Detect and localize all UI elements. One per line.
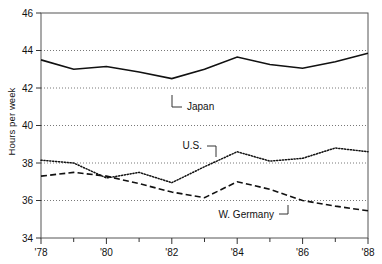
plot-frame	[41, 13, 368, 238]
ytick-label-44: 44	[22, 45, 34, 56]
series-label-japan: Japan	[187, 101, 214, 112]
x-axis-ticks	[41, 238, 368, 244]
plot-svg: 46 44 42 40 38 36 34 '78 '80 '82	[0, 0, 382, 264]
series-label-us: U.S.	[183, 140, 202, 151]
xtick-label-82: '82	[165, 247, 178, 258]
xtick-label-88: '88	[361, 247, 374, 258]
series-label-wgermany: W. Germany	[218, 209, 274, 220]
xtick-label-78: '78	[34, 247, 47, 258]
x-axis-tick-labels: '78 '80 '82 '84 '86 '88	[34, 247, 374, 258]
line-chart: Hours per week 46 44 42	[0, 0, 382, 264]
xtick-label-86: '86	[296, 247, 309, 258]
ytick-label-46: 46	[22, 8, 34, 19]
ytick-label-34: 34	[22, 233, 34, 244]
ytick-label-40: 40	[22, 120, 34, 131]
y-axis-tick-labels: 46 44 42 40 38 36 34	[22, 8, 34, 244]
xtick-label-80: '80	[100, 247, 113, 258]
ytick-label-36: 36	[22, 195, 34, 206]
ytick-label-42: 42	[22, 83, 34, 94]
xtick-label-84: '84	[231, 247, 244, 258]
y-axis-ticks	[36, 13, 41, 238]
ytick-label-38: 38	[22, 158, 34, 169]
